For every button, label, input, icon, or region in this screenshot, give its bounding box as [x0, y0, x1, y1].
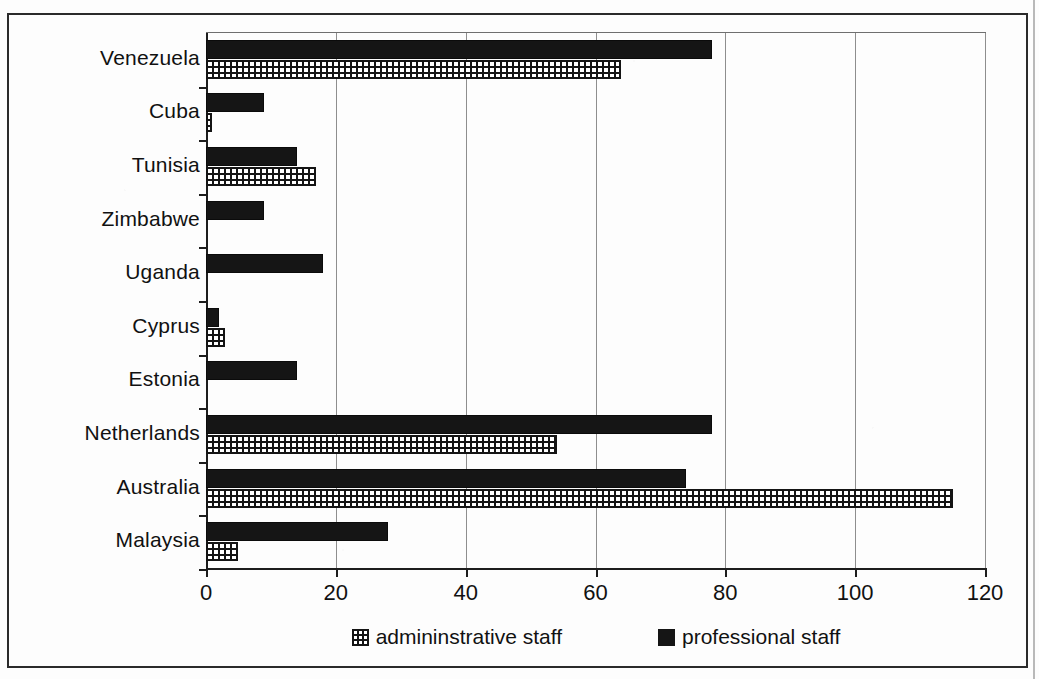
x-axis-tick-label: 80 — [685, 580, 765, 606]
bar-professional-staff — [206, 522, 388, 541]
bar-professional-staff — [206, 93, 264, 112]
category-label: Uganda — [10, 260, 200, 284]
bar-row — [206, 408, 985, 462]
x-axis-tick-label: 20 — [296, 580, 376, 606]
bar-administrative-staff — [206, 435, 557, 454]
legend-label: professional staff — [682, 625, 840, 649]
gridline — [985, 33, 986, 569]
bar-administrative-staff — [206, 489, 953, 508]
legend-item: professional staff — [658, 625, 840, 649]
x-axis-tick — [336, 568, 338, 577]
bar-administrative-staff — [206, 167, 316, 186]
bar-administrative-staff — [206, 328, 225, 347]
bar-professional-staff — [206, 361, 297, 380]
plot-area — [206, 33, 985, 569]
bar-administrative-staff — [206, 113, 212, 132]
bar-row — [206, 247, 985, 301]
solid-swatch-icon — [658, 629, 675, 646]
bar-administrative-staff — [206, 542, 238, 561]
x-axis-tick — [466, 568, 468, 577]
bar-row — [206, 194, 985, 248]
bar-professional-staff — [206, 147, 297, 166]
bar-professional-staff — [206, 40, 712, 59]
bar-professional-staff — [206, 308, 219, 327]
x-axis-tick — [725, 568, 727, 577]
category-label: Estonia — [10, 367, 200, 391]
category-label: Tunisia — [10, 153, 200, 177]
bar-administrative-staff — [206, 60, 621, 79]
bar-professional-staff — [206, 415, 712, 434]
category-label: Netherlands — [10, 421, 200, 445]
x-axis-tick-label: 0 — [166, 580, 246, 606]
bar-row — [206, 301, 985, 355]
x-axis-tick-label: 60 — [556, 580, 636, 606]
chart-page: 020406080100120 admininstrative staffpro… — [0, 0, 1039, 679]
bar-professional-staff — [206, 254, 323, 273]
x-axis-tick — [985, 568, 987, 577]
x-axis-tick — [206, 568, 208, 577]
category-label: Cyprus — [10, 314, 200, 338]
category-label: Malaysia — [10, 528, 200, 552]
bar-row — [206, 87, 985, 141]
bar-row — [206, 140, 985, 194]
scan-edge-line — [1033, 0, 1035, 679]
bar-professional-staff — [206, 201, 264, 220]
checkered-swatch-icon — [352, 629, 369, 646]
bar-row — [206, 355, 985, 409]
category-label: Australia — [10, 475, 200, 499]
legend-item: admininstrative staff — [352, 625, 562, 649]
x-axis-tick-label: 120 — [945, 580, 1025, 606]
category-label: Cuba — [10, 99, 200, 123]
x-axis-tick — [855, 568, 857, 577]
chart-legend: admininstrative staffprofessional staff — [206, 620, 986, 654]
bar-row — [206, 515, 985, 569]
x-axis-tick-label: 40 — [426, 580, 506, 606]
bar-row — [206, 33, 985, 87]
legend-label: admininstrative staff — [376, 625, 562, 649]
bar-row — [206, 462, 985, 516]
category-label: Venezuela — [10, 46, 200, 70]
category-label: Zimbabwe — [10, 207, 200, 231]
x-axis-tick — [596, 568, 598, 577]
bar-professional-staff — [206, 469, 686, 488]
x-axis-tick-label: 100 — [815, 580, 895, 606]
